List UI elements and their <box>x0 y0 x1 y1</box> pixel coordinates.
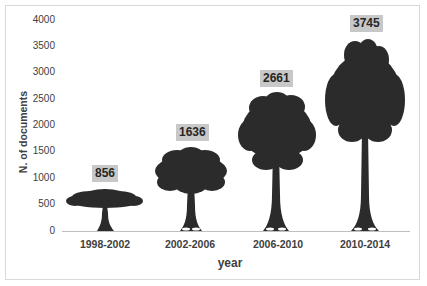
tree-bar-2006-2010 <box>238 92 316 231</box>
x-tick: 2002-2006 <box>150 238 230 250</box>
tree-bar-2010-2014 <box>325 39 405 231</box>
tree-bar-2002-2006 <box>155 147 227 231</box>
data-label: 3745 <box>350 15 383 32</box>
data-label: 1636 <box>176 124 209 141</box>
x-tick: 1998-2002 <box>65 238 145 250</box>
x-tick: 2010-2014 <box>325 238 405 250</box>
x-axis-line <box>62 231 410 232</box>
x-axis-label: year <box>200 256 260 270</box>
data-label: 2661 <box>260 70 293 87</box>
tree-bar-1998-2002 <box>66 189 143 231</box>
data-label: 856 <box>92 165 118 182</box>
x-tick: 2006-2010 <box>238 238 318 250</box>
